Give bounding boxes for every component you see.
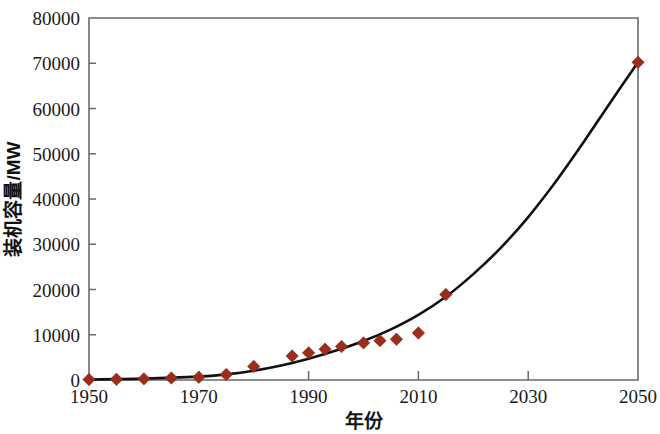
y-tick-label: 20000 xyxy=(33,280,81,301)
y-tick-label: 60000 xyxy=(33,99,81,120)
y-tick-label: 70000 xyxy=(33,53,81,74)
data-point-marker xyxy=(138,373,150,385)
x-tick-label: 1970 xyxy=(180,386,218,407)
y-axis-title: 装机容量/MW xyxy=(2,141,24,257)
x-tick-label: 2010 xyxy=(399,386,437,407)
data-point-marker xyxy=(193,371,205,383)
data-point-marker xyxy=(220,368,232,380)
axes-frame xyxy=(89,18,638,380)
data-point-marker xyxy=(83,373,95,385)
x-tick-label: 2050 xyxy=(619,386,657,407)
y-tick-label: 50000 xyxy=(33,144,81,165)
y-tick-labels: 0100002000030000400005000060000700008000… xyxy=(33,8,81,391)
data-point-marker xyxy=(286,350,298,362)
data-point-marker xyxy=(412,327,424,339)
y-tick-label: 80000 xyxy=(33,8,81,29)
data-point-markers xyxy=(83,56,644,386)
x-tick-labels: 195019701990201020302050 xyxy=(70,386,657,407)
x-tick-label: 1950 xyxy=(70,386,108,407)
data-point-marker xyxy=(165,372,177,384)
data-point-marker xyxy=(110,373,122,385)
fitted-curve xyxy=(89,62,638,379)
x-tick-label: 2030 xyxy=(509,386,547,407)
chart-container: 0100002000030000400005000060000700008000… xyxy=(0,0,660,434)
y-tick-label: 30000 xyxy=(33,234,81,255)
y-tick-label: 10000 xyxy=(33,325,81,346)
y-tick-marks xyxy=(89,63,96,335)
plot-frame xyxy=(89,18,638,380)
data-point-marker xyxy=(390,333,402,345)
fitted-curve-group xyxy=(89,62,638,379)
y-tick-label: 40000 xyxy=(33,189,81,210)
capacity-growth-chart: 0100002000030000400005000060000700008000… xyxy=(0,0,660,434)
x-tick-label: 1990 xyxy=(290,386,328,407)
x-axis-title: 年份 xyxy=(345,410,384,432)
